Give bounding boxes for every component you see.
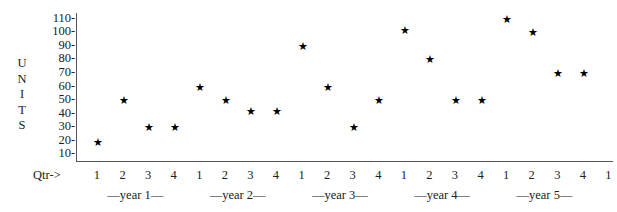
- data-point: ★: [502, 14, 513, 25]
- y-axis-title-letter: U: [10, 56, 34, 72]
- data-point: ★: [169, 122, 180, 133]
- x-axis-tick-label: 1: [293, 168, 311, 182]
- year-group-label: —year 3—: [290, 188, 390, 202]
- data-point: ★: [323, 82, 334, 93]
- y-axis-tick-label: 90-: [59, 39, 77, 52]
- y-axis-title-letter: S: [10, 118, 34, 134]
- data-point: ★: [92, 137, 103, 148]
- x-axis-tick-label: 1: [395, 168, 413, 182]
- y-axis-tick-label: 100-: [52, 25, 76, 38]
- x-axis-tick-label: 4: [472, 168, 490, 182]
- data-point: ★: [399, 25, 410, 36]
- y-axis-tick-labels: 110-100-90-80-70-60-50-40-30-20-10-: [36, 8, 76, 164]
- x-axis-tick-label: 4: [369, 168, 387, 182]
- x-axis-tick-label: 3: [446, 168, 464, 182]
- y-axis-title: UNITS: [10, 56, 34, 134]
- x-axis-tick-label: 3: [344, 168, 362, 182]
- year-group-label: —year 1—: [85, 188, 185, 202]
- x-axis-tick-label: 3: [139, 168, 157, 182]
- x-axis-tick-label: 2: [420, 168, 438, 182]
- x-axis-tick-label: 1: [88, 168, 106, 182]
- y-axis-tick-label: 30-: [59, 120, 77, 133]
- data-point: ★: [246, 106, 257, 117]
- data-point: ★: [450, 95, 461, 106]
- data-point: ★: [578, 68, 589, 79]
- x-axis-tick-label: 2: [216, 168, 234, 182]
- data-point: ★: [527, 27, 538, 38]
- x-axis-tick-label: 1: [190, 168, 208, 182]
- data-point: ★: [118, 95, 129, 106]
- y-axis-tick-label: 50-: [59, 93, 77, 106]
- year-group-label: —year 2—: [188, 188, 288, 202]
- data-point: ★: [553, 68, 564, 79]
- data-point: ★: [220, 95, 231, 106]
- x-axis-tick-label: 3: [241, 168, 259, 182]
- y-axis-title-letter: N: [10, 72, 34, 88]
- x-axis-tick-label: 4: [267, 168, 285, 182]
- y-axis-tick-label: 60-: [59, 80, 77, 93]
- x-axis-tick-label: 1: [497, 168, 515, 182]
- y-axis-tick-label: 110-: [53, 12, 76, 25]
- y-axis-tick-label: 70-: [59, 66, 77, 79]
- data-point: ★: [195, 82, 206, 93]
- x-axis-tick-label: 3: [548, 168, 566, 182]
- plot-area: ★★★★★★★★★★★★★★★★★★★★: [76, 13, 613, 162]
- x-axis-tick-label: 2: [318, 168, 336, 182]
- data-point: ★: [271, 106, 282, 117]
- data-point: ★: [348, 122, 359, 133]
- y-axis-title-letter: I: [10, 87, 34, 103]
- data-point: ★: [425, 54, 436, 65]
- x-axis-tick-label: 2: [523, 168, 541, 182]
- y-axis-tick-label: 80-: [59, 52, 77, 65]
- x-axis-tick-label: 1: [599, 168, 617, 182]
- x-axis-caption: Qtr->: [33, 168, 61, 182]
- data-point: ★: [374, 95, 385, 106]
- data-point: ★: [297, 41, 308, 52]
- data-point: ★: [144, 122, 155, 133]
- y-axis-tick-label: 20-: [59, 134, 77, 147]
- data-point: ★: [476, 95, 487, 106]
- year-group-label: —year 5—: [494, 188, 594, 202]
- x-axis-tick-label: 4: [165, 168, 183, 182]
- x-axis-tick-label: 4: [574, 168, 592, 182]
- x-axis-tick-label: 2: [114, 168, 132, 182]
- y-axis-tick-label: 40-: [59, 107, 77, 120]
- y-axis-title-letter: T: [10, 103, 34, 119]
- units-per-quarter-scatter-chart: UNITS 110-100-90-80-70-60-50-40-30-20-10…: [0, 0, 617, 212]
- year-group-label: —year 4—: [392, 188, 492, 202]
- y-axis-tick-label: 10-: [59, 147, 77, 160]
